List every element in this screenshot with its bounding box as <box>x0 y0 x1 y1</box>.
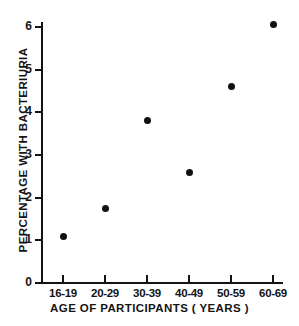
y-tick-1 <box>35 239 42 241</box>
y-tick-6 <box>35 26 42 28</box>
data-point <box>144 117 151 124</box>
y-tick-label-6: 6 <box>18 20 32 32</box>
y-tick-label-6-wrap: 6 <box>14 20 32 32</box>
y-tick-2 <box>35 197 42 199</box>
data-point <box>186 169 193 176</box>
y-tick-5 <box>35 69 42 71</box>
y-axis-line <box>41 22 43 284</box>
y-tick-4 <box>35 111 42 113</box>
x-axis-line <box>41 282 283 284</box>
x-tick-5 <box>272 275 274 283</box>
scatter-chart: 0 1 2 3 4 5 6 16-19 20-29 30-39 40-49 50… <box>0 0 299 326</box>
x-tick-label-5: 60-69 <box>245 287 299 300</box>
data-point <box>228 83 235 90</box>
x-tick-3 <box>188 275 190 283</box>
x-tick-0 <box>62 275 64 283</box>
y-axis-title: PERCENTAGE WITH BACTERIURIA <box>17 35 29 265</box>
x-tick-2 <box>146 275 148 283</box>
data-point <box>102 205 109 212</box>
x-axis-title: AGE OF PARTICIPANTS ( YEARS ) <box>0 302 299 314</box>
data-point <box>60 233 67 240</box>
data-point <box>270 21 277 28</box>
x-tick-1 <box>104 275 106 283</box>
y-tick-0 <box>35 282 42 284</box>
y-tick-label-0: 0 <box>18 276 32 288</box>
y-tick-3 <box>35 154 42 156</box>
x-tick-4 <box>230 275 232 283</box>
y-tick-label-0-wrap: 0 <box>14 276 32 288</box>
